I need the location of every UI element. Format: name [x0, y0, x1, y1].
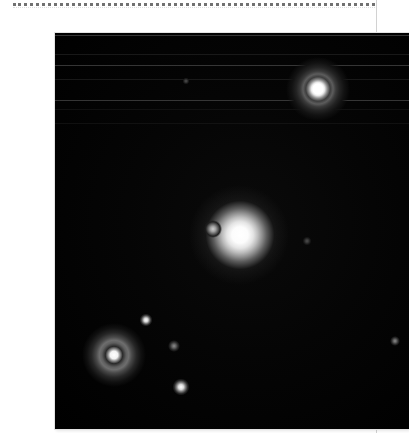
astronomical-figure[interactable]: [55, 33, 409, 429]
sky-background: [55, 33, 409, 429]
figure-frame: [55, 33, 409, 429]
page-top-dotted-rule: [13, 3, 375, 6]
page-top-dotted-rule-shadow: [13, 7, 375, 8]
